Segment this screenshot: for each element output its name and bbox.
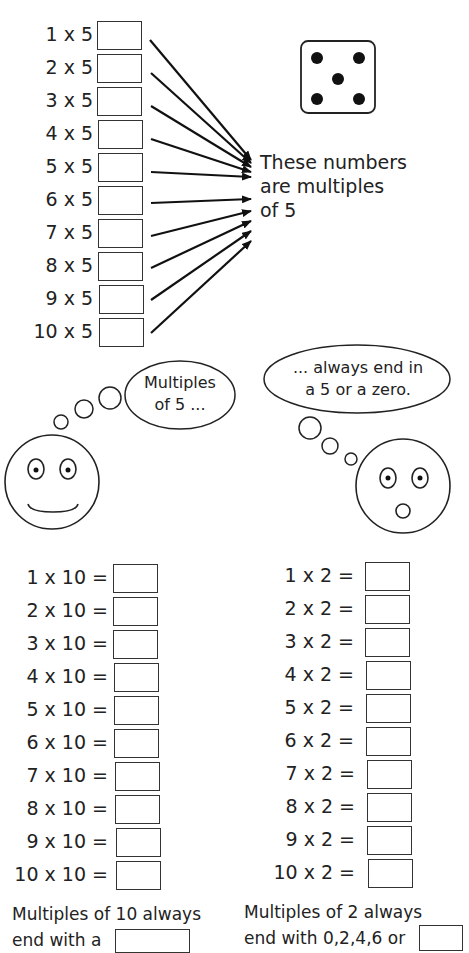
- answer-box-last-digit-10[interactable]: [115, 929, 190, 953]
- equation-label: 5 x 2 =: [240, 696, 354, 718]
- answer-box[interactable]: [113, 597, 158, 626]
- answer-box[interactable]: [367, 826, 412, 855]
- equation-label: 7 x 10 =: [0, 764, 108, 786]
- answer-box[interactable]: [366, 727, 411, 756]
- answer-box[interactable]: [99, 318, 144, 347]
- answer-box[interactable]: [367, 793, 412, 822]
- thought-line: a 5 or a zero.: [265, 379, 451, 401]
- equation-label: 2 x 10 =: [0, 599, 108, 621]
- answer-box[interactable]: [98, 153, 143, 182]
- equation-label: 10 x 5 =: [0, 320, 115, 342]
- equation-label: 3 x 2 =: [240, 630, 354, 652]
- footer-line: Multiples of 2 always: [244, 900, 422, 924]
- equation-label: 6 x 2 =: [240, 729, 354, 751]
- equation-label: 10 x 2 =: [240, 861, 355, 883]
- answer-box[interactable]: [366, 661, 411, 690]
- equation-label: 7 x 2 =: [240, 762, 355, 784]
- answer-box[interactable]: [97, 87, 142, 116]
- footer-line: Multiples of 10 always: [12, 902, 201, 926]
- equation-label: 8 x 2 =: [240, 795, 355, 817]
- answer-box[interactable]: [114, 663, 159, 692]
- thought-line: Multiples: [125, 372, 235, 394]
- thought-bubble-left-text: Multiples of 5 ...: [125, 372, 235, 416]
- answer-box[interactable]: [368, 859, 413, 888]
- answer-box[interactable]: [98, 120, 143, 149]
- thought-line: of 5 ...: [125, 394, 235, 416]
- answer-box-last-digit-2[interactable]: [419, 925, 463, 951]
- answer-box[interactable]: [365, 628, 410, 657]
- answer-box[interactable]: [114, 729, 159, 758]
- equation-label: 2 x 2 =: [240, 597, 354, 619]
- answer-box[interactable]: [115, 762, 160, 791]
- equation-label: 9 x 2 =: [240, 828, 355, 850]
- equation-label: 5 x 10 =: [0, 698, 108, 720]
- thought-bubble-right-text: ... always end in a 5 or a zero.: [265, 357, 451, 401]
- footer-line: end with a: [12, 928, 101, 952]
- arrows: [150, 40, 251, 333]
- footer-line: end with 0,2,4,6 or: [244, 926, 405, 950]
- smiley-face-icon: [5, 435, 99, 529]
- equation-label: 8 x 10 =: [0, 797, 108, 819]
- equation-label: 9 x 5 =: [0, 287, 115, 309]
- equation-label: 1 x 10 =: [0, 566, 108, 588]
- answer-box[interactable]: [365, 595, 410, 624]
- note-line: are multiples: [260, 174, 384, 198]
- answer-box[interactable]: [99, 285, 144, 314]
- equation-label: 10 x 10 =: [0, 863, 108, 885]
- answer-box[interactable]: [115, 795, 160, 824]
- answer-box[interactable]: [116, 861, 161, 890]
- answer-box[interactable]: [97, 54, 142, 83]
- answer-box[interactable]: [98, 252, 143, 281]
- note-line: These numbers: [260, 150, 407, 174]
- note-line: of 5: [260, 198, 296, 222]
- answer-box[interactable]: [365, 562, 410, 591]
- equation-label: 3 x 10 =: [0, 632, 108, 654]
- equation-label: 1 x 2 =: [240, 564, 354, 586]
- surprised-face-icon: [356, 439, 450, 533]
- answer-box[interactable]: [367, 760, 412, 789]
- answer-box[interactable]: [113, 630, 158, 659]
- equation-label: 4 x 2 =: [240, 663, 354, 685]
- equation-label: 9 x 10 =: [0, 830, 108, 852]
- answer-box[interactable]: [366, 694, 411, 723]
- answer-box[interactable]: [116, 828, 161, 857]
- answer-box[interactable]: [98, 186, 143, 215]
- answer-box[interactable]: [97, 21, 142, 50]
- answer-box[interactable]: [114, 696, 159, 725]
- answer-box[interactable]: [98, 219, 143, 248]
- answer-box[interactable]: [113, 564, 158, 593]
- thought-line: ... always end in: [265, 357, 451, 379]
- equation-label: 4 x 10 =: [0, 665, 108, 687]
- equation-label: 6 x 10 =: [0, 731, 108, 753]
- die-five-icon: [301, 41, 375, 113]
